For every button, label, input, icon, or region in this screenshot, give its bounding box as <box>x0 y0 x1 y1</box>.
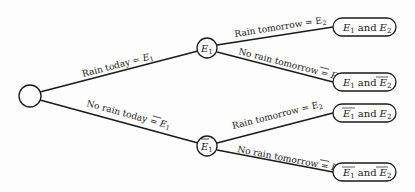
label-rain-today: Rain today = E1 <box>81 51 155 81</box>
tree-svg: E1 E1 Rain today = E1 No rain today = E1… <box>0 0 415 192</box>
leaf-not-e1-and-not-e2: E1andE2 <box>333 163 396 181</box>
edge-rain-today <box>40 51 198 92</box>
leaf-e1-and-not-e2: E1andE2 <box>333 73 396 91</box>
label-e1bar-no-rain-tomorrow: No rain tomorrow = E2 <box>236 144 342 176</box>
svg-text:No rain tomorrow = E2: No rain tomorrow = E2 <box>236 144 342 176</box>
probability-tree-diagram: E1 E1 Rain today = E1 No rain today = E1… <box>0 0 415 192</box>
label-e1-rain-tomorrow: Rain tomorrow = E2 <box>234 15 327 41</box>
root-node <box>19 85 41 107</box>
node-e1: E1 <box>197 38 217 58</box>
node-e1-complement: E1 <box>197 136 217 156</box>
label-e1-no-rain-tomorrow: No rain tomorrow = E2 <box>237 46 343 84</box>
svg-text:No rain tomorrow = E2: No rain tomorrow = E2 <box>237 46 343 84</box>
leaf-not-e1-and-e2: E1andE2 <box>333 104 396 122</box>
leaf-e1-and-e2: E1andE2 <box>333 18 396 36</box>
